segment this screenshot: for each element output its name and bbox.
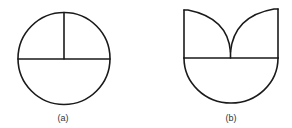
figure-b-label: (b) (226, 113, 237, 123)
diagram-canvas: (a) (b) (0, 0, 292, 128)
figure-b-left-arc (184, 10, 231, 58)
figure-b-bottom-semicircle (184, 58, 278, 103)
figure-a-label: (a) (58, 113, 69, 123)
figure-a: (a) (18, 13, 110, 124)
figure-b: (b) (184, 9, 278, 123)
figure-b-right-arc (231, 9, 279, 52)
